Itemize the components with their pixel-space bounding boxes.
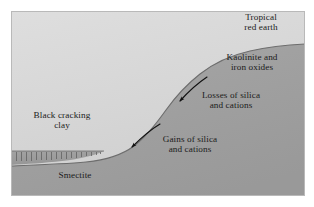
label-tropical-red-earth: Tropical red earth [222,12,300,33]
label-gains-of-silica-and-cations: Gains of silica and cations [143,134,237,155]
label-black-cracking-clay: Black cracking clay [14,110,110,131]
label-kaolinite-and-iron-oxides: Kaolinite and iron oxides [200,52,304,73]
diagram-figure: Tropical red earth Kaolinite and iron ox… [0,0,314,207]
label-smectite: Smectite [40,170,110,180]
label-losses-of-silica-and-cations: Losses of silica and cations [184,90,278,111]
